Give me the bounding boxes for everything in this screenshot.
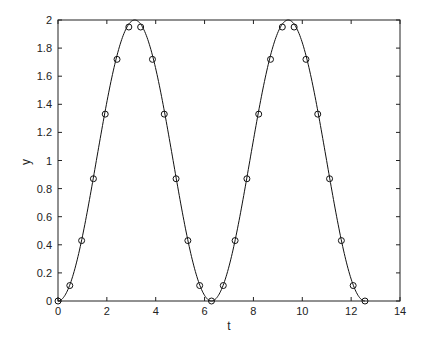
x-tick-label: 2 — [104, 305, 110, 317]
y-tick-label: 0.6 — [37, 211, 52, 223]
curve-line — [58, 20, 365, 301]
sample-markers — [55, 24, 368, 304]
y-tick-label: 0.8 — [37, 183, 52, 195]
y-tick-label: 1.8 — [37, 42, 52, 54]
x-tick-label: 14 — [394, 305, 406, 317]
x-tick-label: 0 — [55, 305, 61, 317]
chart: 0246810121400.20.40.60.811.21.41.61.82 t… — [0, 0, 424, 345]
x-tick-label: 8 — [250, 305, 256, 317]
x-tick-label: 12 — [345, 305, 357, 317]
x-tick-label: 4 — [153, 305, 159, 317]
y-tick-label: 0.4 — [37, 239, 52, 251]
y-axis-label: y — [19, 159, 33, 165]
plot-frame — [58, 20, 400, 301]
y-tick-label: 0.2 — [37, 267, 52, 279]
x-axis-label: t — [227, 319, 231, 333]
x-tick-label: 6 — [202, 305, 208, 317]
axis-ticks: 0246810121400.20.40.60.811.21.41.61.82 — [37, 14, 406, 317]
y-tick-label: 1.2 — [37, 126, 52, 138]
x-tick-label: 10 — [296, 305, 308, 317]
y-tick-label: 0 — [46, 295, 52, 307]
y-tick-label: 2 — [46, 14, 52, 26]
y-tick-label: 1 — [46, 155, 52, 167]
y-tick-label: 1.6 — [37, 70, 52, 82]
y-tick-label: 1.4 — [37, 98, 52, 110]
